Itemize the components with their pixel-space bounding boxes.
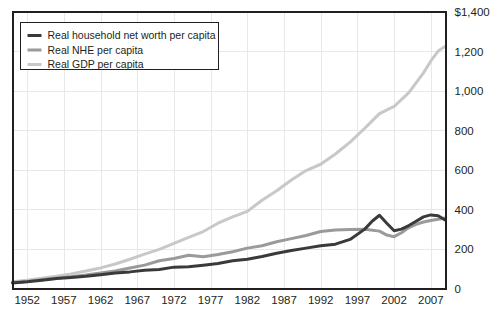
x-tick-label: 1987 [271,294,297,306]
line-chart: $1,4001,2001,0008006004002000 1952195719… [0,0,501,319]
y-tick-label: 1,000 [455,85,484,97]
legend-label-1: Real household net worth per capita [48,29,216,41]
y-tick-label: 800 [455,125,474,137]
x-tick-label: 1957 [51,294,77,306]
data-series-layer [13,46,446,283]
legend-label-3: Real GDP per capita [48,58,144,70]
x-tick-label: 1967 [124,294,150,306]
y-axis-tick-labels: $1,4001,2001,0008006004002000 [455,6,490,295]
x-tick-label: 2007 [418,294,444,306]
x-tick-label: 1952 [14,294,40,306]
x-tick-label: 1992 [308,294,334,306]
x-tick-label: 1977 [198,294,224,306]
y-tick-label: $1,400 [455,6,490,18]
y-tick-label: 1,200 [455,46,484,58]
x-tick-label: 1982 [235,294,261,306]
y-tick-label: 400 [455,204,474,216]
chart-legend: Real household net worth per capitaReal … [21,23,219,71]
legend-label-2: Real NHE per capita [48,44,144,56]
x-tick-label: 2002 [381,294,407,306]
y-tick-label: 200 [455,243,474,255]
x-tick-label: 1972 [161,294,187,306]
x-axis-tick-labels: 1952195719621967197219771982198719921997… [14,294,443,306]
series-line-3 [13,46,446,282]
y-tick-label: 600 [455,164,474,176]
x-tick-label: 1997 [345,294,371,306]
y-tick-label: 0 [455,283,461,295]
x-tick-label: 1962 [88,294,114,306]
chart-container: $1,4001,2001,0008006004002000 1952195719… [0,0,501,319]
